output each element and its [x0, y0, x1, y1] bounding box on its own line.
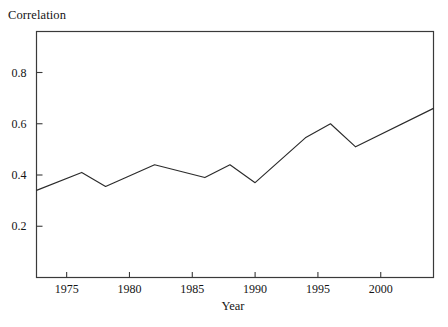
plot-frame	[37, 32, 434, 278]
y-tick-label: 0.2	[12, 219, 27, 233]
line-chart-plot: 0.20.40.60.8 197519801985199019952000	[0, 0, 448, 327]
x-tick-label: 1995	[306, 282, 330, 296]
y-tick-label: 0.6	[12, 117, 27, 131]
x-axis-label: Year	[221, 299, 244, 313]
x-tick-label: 1985	[180, 282, 204, 296]
x-axis-ticks: 197519801985199019952000	[55, 272, 393, 296]
x-tick-label: 1990	[243, 282, 267, 296]
y-tick-label: 0.4	[12, 168, 27, 182]
y-axis-ticks: 0.20.40.60.8	[12, 66, 43, 234]
chart-figure: Correlation 0.20.40.60.8 197519801985199…	[0, 0, 448, 327]
x-tick-label: 2000	[369, 282, 393, 296]
x-tick-label: 1980	[117, 282, 141, 296]
y-tick-label: 0.8	[12, 66, 27, 80]
x-tick-label: 1975	[55, 282, 79, 296]
x-axis-label-wrap: Year	[0, 299, 448, 313]
data-line-correlation	[37, 108, 434, 190]
